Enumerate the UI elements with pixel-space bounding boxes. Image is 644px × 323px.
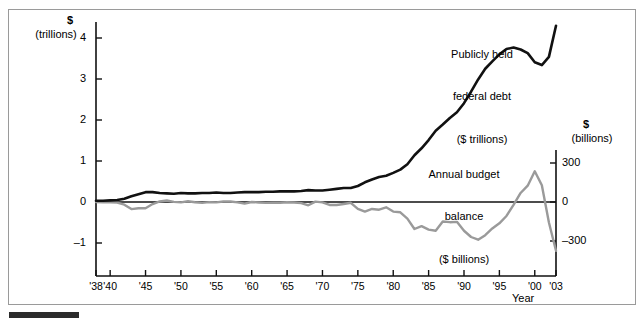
section-rule	[9, 312, 79, 318]
x-tick-label-9: '80	[376, 280, 410, 292]
x-tick-label-7: '70	[305, 280, 339, 292]
left-axis-unit-currency: $	[48, 14, 92, 27]
right-tick-label-2: –300	[562, 234, 608, 247]
balance-annotation-line-2: balance	[396, 209, 532, 223]
balance-annotation-line-3: ($ billions)	[396, 252, 532, 266]
chart-figure: $ (trillions) $ (billions) Year Publicly…	[0, 0, 644, 323]
x-tick-label-6: '65	[270, 280, 304, 292]
x-tick-label-1: '40	[93, 280, 127, 292]
balance-annotation-line-1: Annual budget	[396, 167, 532, 181]
x-tick-label-8: '75	[341, 280, 375, 292]
x-tick-label-10: '85	[412, 280, 446, 292]
x-tick-label-14: '03	[539, 280, 573, 292]
x-tick-label-11: '90	[447, 280, 481, 292]
x-tick-label-3: '50	[164, 280, 198, 292]
right-tick-label-1: 0	[562, 195, 608, 208]
right-axis-unit-currency: $	[566, 118, 606, 131]
left-tick-label-1: 3	[52, 72, 86, 85]
debt-annotation-line-1: Publicly held	[412, 47, 552, 61]
x-tick-label-4: '55	[199, 280, 233, 292]
right-tick-label-0: 300	[562, 156, 608, 169]
left-axis-ticks	[96, 38, 102, 243]
balance-annotation: Annual budget balance ($ billions)	[396, 138, 532, 295]
debt-annotation-line-2: federal debt	[412, 89, 552, 103]
left-tick-label-0: 4	[52, 31, 86, 44]
left-tick-label-2: 2	[52, 113, 86, 126]
left-tick-label-4: 0	[52, 195, 86, 208]
left-tick-label-3: 1	[52, 154, 86, 167]
x-tick-label-12: '95	[482, 280, 516, 292]
x-tick-label-5: '60	[235, 280, 269, 292]
right-axis-unit-scale: (billions)	[562, 132, 622, 145]
x-tick-label-2: '45	[129, 280, 163, 292]
left-tick-label-5: –1	[52, 236, 86, 249]
